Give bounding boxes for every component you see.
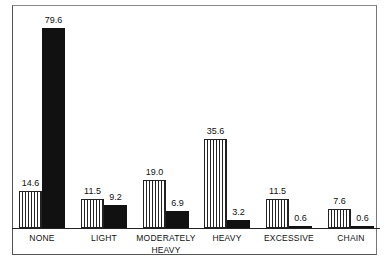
value-label: 19.0 [135,167,175,177]
value-label: 0.6 [343,213,383,223]
bar-series2 [166,211,189,228]
chart-frame [12,5,377,255]
bar-series2 [104,205,127,228]
bar-series1 [19,191,42,228]
value-label: 35.6 [196,126,236,136]
value-label: 9.2 [96,192,136,202]
value-label: 7.6 [320,196,360,206]
bar-series2 [42,28,65,228]
category-label: CHAIN [311,232,388,244]
value-label: 0.6 [281,213,321,223]
value-label: 11.5 [258,186,298,196]
bar-series1 [81,199,104,228]
bar-series2 [227,220,250,228]
x-axis-baseline [12,228,380,229]
value-label: 3.2 [219,207,259,217]
value-label: 6.9 [158,198,198,208]
value-label: 14.6 [11,178,51,188]
value-label: 79.6 [34,15,74,25]
